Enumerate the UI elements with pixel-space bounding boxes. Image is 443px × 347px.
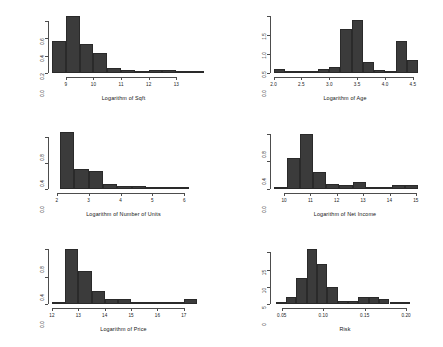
histogram-bar [327,287,337,304]
histogram-bar [175,187,189,189]
x-axis-tick [105,308,106,311]
x-axis-tick-label: 0.10 [319,313,328,318]
y-axis-tick-label: 0.8 [40,249,45,291]
histogram-bar [379,187,392,189]
x-axis-title: Logarithm of Net Income [268,211,423,217]
x-axis-tick [337,193,338,196]
x-axis-line [282,308,406,309]
y-axis-tick [267,270,270,271]
x-axis-tick [131,308,132,311]
x-axis-tick [385,77,386,80]
x-axis-tick-label: 13 [174,82,179,87]
x-axis-line [52,308,184,309]
x-axis-tick [121,77,122,80]
x-axis-tick-label: 9 [64,82,67,87]
histogram-panel-2: 0.00.51.01.52.02.53.03.54.04.5Logarithm … [222,0,443,116]
y-axis-tick [45,38,48,39]
x-axis-tick [89,193,90,196]
x-axis-tick [184,308,185,311]
histogram-bar [340,29,351,73]
histogram-bar [363,62,374,73]
histogram-panel-5: 0.00.40.8121314151617Logarithm of Price [0,231,222,347]
histogram-bar [89,171,103,189]
histogram-bar [287,158,300,188]
histogram-bar [374,70,385,73]
x-axis-tick [52,308,53,311]
histogram-bar [274,187,287,189]
histogram-bar [285,71,296,73]
x-axis-tick [323,308,324,311]
histogram-bar [52,41,66,73]
y-axis-tick [267,304,270,305]
histogram-bar [78,271,91,304]
x-axis-tick-label: 10 [91,82,96,87]
x-axis-tick-label: 13 [76,313,81,318]
x-axis-tick [416,193,417,196]
y-axis-tick [267,73,270,74]
histogram-panel-6: 0510150.050.100.150.20Risk [222,231,443,347]
bar-series [274,130,419,189]
histogram-bar [318,69,329,73]
histogram-bar [190,71,204,73]
x-axis-tick-label: 11 [119,82,124,87]
x-axis-tick [149,77,150,80]
histogram-bar [366,187,379,189]
y-axis-line [48,21,49,73]
plot-area [52,245,197,304]
histogram-bar [149,70,163,73]
histogram-bar [392,185,405,189]
histogram-bar [65,249,78,304]
histogram-bar [400,302,410,304]
y-axis-tick-label: 0.6 [40,20,45,62]
histogram-bar [93,53,107,73]
histogram-grid-figure: 0.00.20.40.6910111213Logarithm of Sqft0.… [0,0,443,347]
histogram-bar [276,302,286,304]
y-axis-tick [45,21,48,22]
y-axis-tick [267,35,270,36]
x-axis-tick-label: 15 [128,313,133,318]
histogram-bar [379,299,389,304]
x-axis-tick-label: 0.05 [277,313,286,318]
histogram-bar [407,60,418,73]
x-axis-tick-label: 0.20 [401,313,410,318]
x-axis-tick-label: 2 [55,198,58,203]
bar-series [52,245,197,304]
histogram-bar [307,249,317,305]
x-axis-tick-label: 14 [387,198,392,203]
histogram-bar [353,182,366,189]
y-axis-tick [45,277,48,278]
y-axis-tick [45,56,48,57]
x-axis-tick-label: 12 [334,198,339,203]
histogram-bar [296,278,306,304]
plot-area [52,14,197,73]
y-axis-tick-label: 15 [261,252,266,294]
x-axis-tick [363,193,364,196]
x-axis-tick [78,308,79,311]
y-axis-tick [267,134,270,135]
y-axis-tick-label: 0.8 [40,137,45,179]
x-axis-tick [284,193,285,196]
y-axis-tick [45,249,48,250]
x-axis-tick [152,193,153,196]
x-axis-tick-label: 2.5 [298,82,305,87]
x-axis-tick-label: 12 [49,313,54,318]
x-axis-tick [329,77,330,80]
x-axis-title: Risk [268,326,423,332]
histogram-bar [60,132,74,188]
bar-series [52,130,197,189]
histogram-bar [107,68,121,73]
x-axis-tick [406,308,407,311]
histogram-bar [369,297,379,304]
x-axis-title: Logarithm of Sqft [46,95,201,101]
histogram-bar [307,71,318,73]
y-axis-tick [45,163,48,164]
histogram-bar [274,69,285,73]
histogram-bar [52,302,65,304]
histogram-bar [300,134,313,189]
histogram-bar [74,169,88,188]
histogram-bar [118,299,131,304]
x-axis-tick-label: 3 [87,198,90,203]
x-axis-tick [282,308,283,311]
y-axis-tick-label: 1.5 [261,15,266,57]
y-axis-line [48,249,49,304]
